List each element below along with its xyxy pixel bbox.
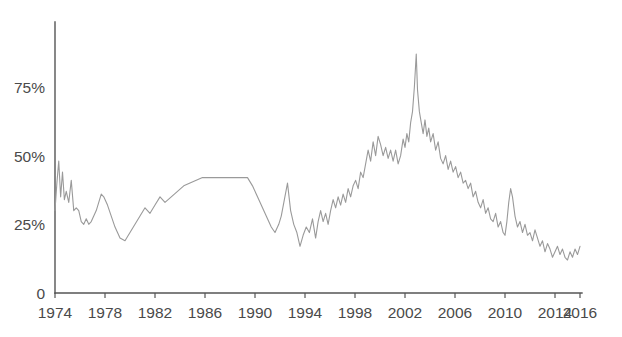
x-tick-label: 1982 — [138, 304, 172, 321]
y-tick-label: 50% — [14, 148, 45, 165]
x-tick-marks — [55, 293, 580, 298]
x-tick-label: 2006 — [438, 304, 472, 321]
y-tick-label: 25% — [14, 216, 45, 233]
x-tick-label: 1998 — [338, 304, 372, 321]
data-series-line — [55, 54, 580, 260]
y-axis-group: 025%50%75% — [14, 22, 55, 302]
x-tick-label: 2016 — [563, 304, 597, 321]
x-tick-labels: 1974197819821986199019941998200220062010… — [38, 304, 597, 321]
chart-container: 025%50%75% 19741978198219861990199419982… — [0, 0, 622, 337]
y-tick-label: 0 — [36, 285, 45, 302]
plot-area — [55, 54, 580, 260]
y-tick-label: 75% — [14, 79, 45, 96]
x-tick-label: 1990 — [238, 304, 273, 321]
x-axis-group: 1974197819821986199019941998200220062010… — [38, 293, 597, 321]
x-tick-label: 1978 — [88, 304, 122, 321]
x-tick-label: 1994 — [288, 304, 323, 321]
x-tick-label: 2010 — [488, 304, 523, 321]
line-chart: 025%50%75% 19741978198219861990199419982… — [0, 0, 622, 337]
x-tick-label: 1986 — [188, 304, 222, 321]
y-tick-labels: 025%50%75% — [14, 79, 45, 302]
x-tick-label: 1974 — [38, 304, 73, 321]
x-tick-label: 2002 — [388, 304, 422, 321]
